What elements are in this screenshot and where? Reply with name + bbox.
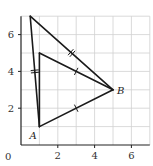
geometry-figure: 2462460AB	[0, 0, 153, 166]
point-label-A: A	[28, 130, 36, 141]
x-tick-label: 2	[55, 150, 61, 161]
congruence-tick-mark	[31, 72, 39, 73]
x-tick-label: 6	[128, 150, 134, 161]
point-label-B: B	[116, 85, 124, 96]
axes	[18, 16, 150, 148]
labels: 2462460AB	[5, 29, 135, 162]
y-tick-label: 4	[8, 66, 14, 77]
y-tick-label: 6	[8, 29, 14, 40]
x-tick-label: 4	[91, 150, 97, 161]
congruence-tick-mark	[31, 70, 39, 71]
origin-label: 0	[5, 151, 11, 162]
y-tick-label: 2	[8, 103, 14, 114]
